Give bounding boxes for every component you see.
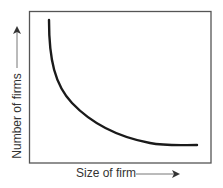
plot-frame: [30, 12, 212, 164]
firm-size-curve: [49, 20, 197, 145]
x-axis-label: Size of firm: [76, 166, 136, 180]
chart-canvas: [0, 0, 223, 188]
y-axis-label: Number of firms: [10, 73, 24, 158]
